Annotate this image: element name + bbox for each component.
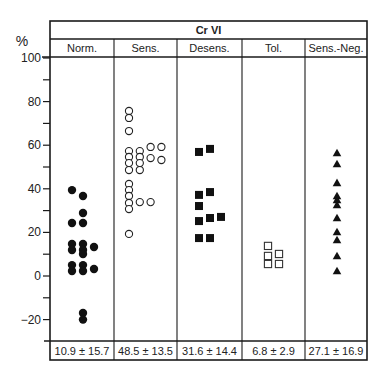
data-point [90,265,98,273]
scatter-chart: Cr VINorm.Sens.Desens.Tol.Sens.-Neg.%100… [0,0,386,377]
data-point [147,143,154,150]
data-point [125,192,132,199]
data-point [195,234,203,242]
summary-value: 10.9 ± 15.7 [55,345,110,357]
data-point [217,213,225,221]
chart-title-label: Cr VI [196,24,222,36]
y-axis [43,58,50,320]
data-point [158,156,165,163]
data-point [333,236,342,244]
summary-value: 27.1 ± 16.9 [309,345,364,357]
data-point [125,205,132,212]
data-point [68,186,76,194]
y-tick-label: 60 [28,138,42,152]
column-header: Tol. [265,42,282,54]
data-point [333,214,342,222]
column-header: Sens. [131,42,159,54]
data-point [206,145,214,153]
column-header: Desens. [189,42,229,54]
data-point [206,234,214,242]
y-tick-label: 80 [28,95,42,109]
data-point [125,166,132,173]
data-point [79,315,87,323]
column-header: Norm. [67,42,97,54]
summary-value: 48.5 ± 13.5 [118,345,173,357]
data-point [68,246,76,254]
data-point [195,148,203,156]
data-point [79,209,87,217]
data-point [125,107,132,114]
data-point [79,219,87,227]
data-point [275,260,282,267]
data-points [68,107,342,323]
data-point [79,192,87,200]
summary-value: 6.8 ± 2.9 [252,345,295,357]
y-axis-unit-label: % [16,33,28,49]
data-point [333,228,342,236]
data-point [206,188,214,196]
data-point [136,166,143,173]
data-point [264,242,271,249]
data-point [147,198,154,205]
y-tick-label: −20 [21,313,42,327]
data-point [333,149,342,157]
data-point [333,179,342,187]
data-point [79,267,87,275]
chart-frame [42,21,367,360]
data-point [333,267,342,275]
data-point [125,159,132,166]
data-point [333,252,342,260]
y-tick-label: 40 [28,182,42,196]
data-point [158,143,165,150]
data-point [125,114,132,121]
data-point [136,159,143,166]
y-tick-label: 0 [34,269,41,283]
summary-value: 31.6 ± 14.4 [182,345,237,357]
data-point [125,230,132,237]
data-point [147,154,154,161]
data-point [79,250,87,258]
data-point [333,160,342,168]
data-point [195,202,203,210]
data-point [206,214,214,222]
data-point [195,191,203,199]
data-point [264,252,271,259]
data-point [68,267,76,275]
y-tick-label: 20 [28,225,42,239]
data-point [125,127,132,134]
data-point [264,260,271,267]
data-point [275,250,282,257]
data-point [90,243,98,251]
y-tick-label: 100 [21,51,41,65]
data-point [136,198,143,205]
data-point [68,219,76,227]
data-point [195,217,203,225]
column-header: Sens.-Neg. [308,42,363,54]
